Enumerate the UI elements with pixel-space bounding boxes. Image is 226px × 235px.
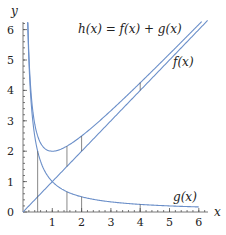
x-tick-label: 1	[49, 216, 56, 229]
x-tick-label: 2	[78, 216, 85, 229]
y-tick-label: 4	[7, 84, 14, 97]
h-curve	[28, 22, 202, 152]
curves	[23, 20, 208, 212]
function-sum-chart: 1234560123456 y x h(x) = f(x) + g(x) f(x…	[0, 0, 226, 235]
x-tick-label: 5	[166, 216, 173, 229]
f-curve	[23, 20, 208, 212]
f-label: f(x)	[172, 55, 194, 69]
y-tick-label: 0	[7, 206, 14, 219]
y-tick-label: 5	[7, 54, 14, 67]
x-tick-label: 3	[107, 216, 114, 229]
x-tick-label: 4	[137, 216, 144, 229]
y-axis-label: y	[10, 4, 18, 18]
y-tick-label: 6	[7, 24, 14, 37]
x-axis-label: x	[214, 205, 221, 219]
h-label: h(x) = f(x) + g(x)	[78, 22, 182, 36]
x-tick-label: 6	[195, 216, 202, 229]
y-tick-label: 2	[7, 145, 14, 158]
g-label: g(x)	[173, 190, 197, 204]
y-tick-label: 3	[7, 115, 14, 128]
y-tick-label: 1	[7, 176, 14, 189]
